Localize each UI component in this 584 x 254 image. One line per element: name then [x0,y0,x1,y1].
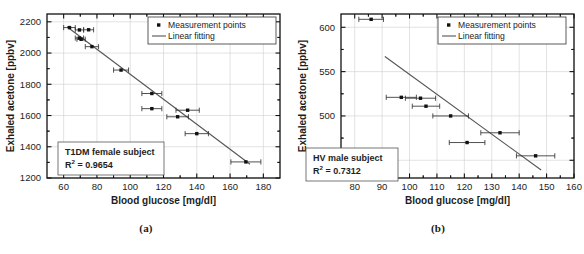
data-point [176,115,179,118]
data-point [90,45,93,48]
svg-text:600: 600 [319,22,335,33]
svg-text:160: 160 [566,181,582,192]
annotation-box: T1DM female subjectR2 = 0.9654 [58,142,164,175]
svg-text:100: 100 [402,181,418,192]
panel-a: 6080100120140160180120014001600180020002… [0,0,292,220]
panel-b-caption: (b) [292,222,584,234]
data-point [119,68,122,71]
data-point [186,109,189,112]
svg-text:120: 120 [156,181,172,192]
svg-text:Linear fitting: Linear fitting [168,31,215,41]
data-point [68,26,71,29]
svg-text:100: 100 [122,181,138,192]
svg-text:Linear fitting: Linear fitting [458,31,505,41]
legend: Measurement pointsLinear fitting [148,17,276,44]
data-point [150,107,153,110]
data-point [449,114,452,117]
data-point [78,28,81,31]
svg-text:Blood glucose [mg/dl]: Blood glucose [mg/dl] [111,195,216,206]
data-point [369,18,372,21]
svg-text:Measurement points: Measurement points [168,20,246,30]
panel-b-plot: 8090100110120130140150160450500550600Blo… [292,0,584,220]
svg-text:T1DM female subject: T1DM female subject [65,147,155,157]
svg-text:90: 90 [377,181,388,192]
svg-text:Exhaled acetone [ppbv]: Exhaled acetone [ppbv] [297,40,308,152]
svg-text:110: 110 [429,181,444,192]
data-point [195,132,198,135]
data-point [465,141,468,144]
svg-text:140: 140 [511,181,527,192]
svg-text:150: 150 [539,181,555,192]
panel-a-caption: (a) [0,222,292,234]
svg-text:180: 180 [255,181,271,192]
svg-text:2000: 2000 [20,47,41,58]
svg-text:Measurement points: Measurement points [458,20,536,30]
legend: Measurement pointsLinear fitting [438,17,566,44]
svg-text:1400: 1400 [20,141,41,152]
data-point [87,28,90,31]
svg-text:140: 140 [189,181,205,192]
svg-text:HV male subject: HV male subject [313,153,383,163]
data-point [498,131,501,134]
svg-text:80: 80 [349,181,360,192]
svg-text:130: 130 [484,181,500,192]
data-point [150,92,153,95]
data-point [419,97,422,100]
panel-a-plot: 6080100120140160180120014001600180020002… [0,0,292,220]
svg-text:160: 160 [222,181,238,192]
svg-text:Blood glucose [mg/dl]: Blood glucose [mg/dl] [405,195,510,206]
svg-text:120: 120 [456,181,472,192]
data-point [424,104,427,107]
figure-container: 6080100120140160180120014001600180020002… [0,0,584,254]
svg-text:1800: 1800 [20,79,41,90]
data-point [244,160,247,163]
svg-text:1200: 1200 [20,172,41,183]
svg-text:550: 550 [319,66,335,77]
svg-text:500: 500 [319,110,335,121]
svg-text:1600: 1600 [20,110,41,121]
svg-text:60: 60 [58,181,69,192]
panel-b: 8090100110120130140150160450500550600Blo… [292,0,584,220]
svg-text:80: 80 [92,181,103,192]
data-point [79,38,82,41]
annotation-box: HV male subjectR2 = 0.7312 [306,148,398,181]
svg-text:Exhaled acetone [ppbv]: Exhaled acetone [ppbv] [5,40,16,152]
data-point [400,96,403,99]
svg-text:2200: 2200 [20,16,41,27]
data-point [534,154,537,157]
